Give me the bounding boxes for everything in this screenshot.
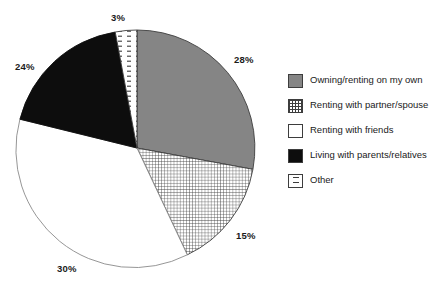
legend-swatch-solid-black-icon [288,149,303,163]
legend-label-owning-renting-on-my-own: Owning/renting on my own [310,75,422,85]
legend-label-renting-with-partner-spouse: Renting with partner/spouse [310,100,428,110]
legend-swatch-horizontal-dashes-icon [288,174,303,188]
legend-item-renting-with-friends: Renting with friends [288,118,436,143]
pie-label-other: 3% [111,13,125,23]
pie-slice-owning-renting-on-my-own [137,30,255,169]
legend-item-other: Other [288,168,436,193]
legend-label-living-with-parents-relatives: Living with parents/relatives [310,150,427,160]
legend-item-living-with-parents-relatives: Living with parents/relatives [288,143,436,168]
legend-label-renting-with-friends: Renting with friends [310,125,393,135]
legend-item-owning-renting-on-my-own: Owning/renting on my own [288,68,436,93]
legend-swatch-cross-hatch-icon [288,99,303,113]
pie-label-owning-renting-on-my-own: 28% [234,55,254,65]
legend-item-renting-with-partner-spouse: Renting with partner/spouse [288,93,436,118]
pie-label-renting-with-friends: 30% [57,264,77,274]
pie-label-living-with-parents-relatives: 24% [15,62,35,72]
legend-swatch-white-icon [288,124,303,138]
pie-chart-figure: 3% 28% 15% 30% 24% Owning/renting on my … [0,0,436,284]
legend-swatch-solid-gray-icon [288,74,303,88]
chart-legend: Owning/renting on my own Renting with pa… [288,68,436,193]
legend-label-other: Other [310,175,334,185]
pie-label-renting-with-partner-spouse: 15% [236,231,256,241]
